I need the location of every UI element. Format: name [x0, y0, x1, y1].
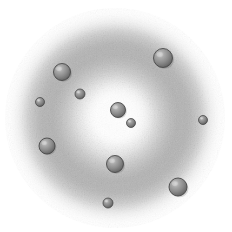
- particle-cloud-figure: [0, 0, 232, 232]
- sphere-right-small: [199, 116, 208, 125]
- sphere-center-small: [127, 119, 136, 128]
- sphere-inner-upper: [75, 89, 85, 99]
- figure-canvas: [0, 0, 232, 232]
- sphere-left-small: [36, 98, 45, 107]
- sphere-bottom-small: [103, 198, 113, 208]
